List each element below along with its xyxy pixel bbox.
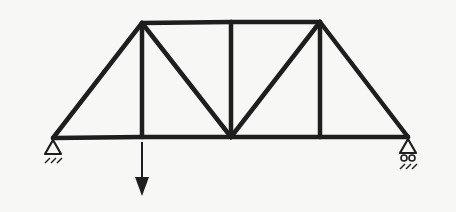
pin-support-icon xyxy=(45,140,62,163)
truss-member-HE xyxy=(320,22,408,137)
truss-member-AB xyxy=(53,137,142,138)
truss-members xyxy=(53,22,408,138)
load-arrow-icon xyxy=(135,142,149,196)
truss-diagram xyxy=(0,0,456,212)
truss-svg xyxy=(0,0,456,212)
roller-support-icon xyxy=(400,139,417,169)
truss-member-AF xyxy=(53,23,142,138)
truss-loads xyxy=(135,142,149,196)
truss-member-FC xyxy=(142,23,231,137)
truss-supports xyxy=(45,139,417,169)
truss-member-FG xyxy=(142,22,231,23)
truss-member-CH xyxy=(231,22,320,137)
